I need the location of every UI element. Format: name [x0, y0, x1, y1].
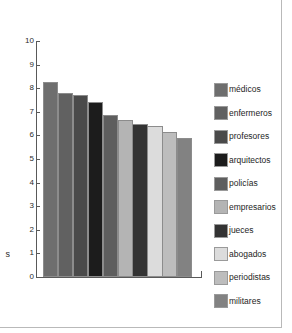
y-axis-tick-label-wrap: 5 [0, 155, 34, 163]
y-axis-tick-label-wrap: 9 [0, 61, 34, 69]
legend-label: periodistas [229, 273, 270, 282]
bar-series [43, 41, 192, 277]
bar [132, 124, 147, 277]
legend-label: empresarios [229, 203, 276, 212]
bar [73, 95, 88, 277]
legend-item: empresarios [214, 196, 280, 220]
legend-item: enfermeros [214, 102, 280, 126]
chart-page: 109876543210 s médicosenfermerosprofesor… [0, 0, 292, 333]
legend-item: militares [214, 290, 280, 314]
y-axis-tick [36, 206, 40, 207]
y-axis-tick-label: 4 [12, 179, 34, 187]
legend-label: militares [229, 297, 261, 306]
y-axis-tick-label: 9 [12, 61, 34, 69]
x-axis-line [36, 277, 202, 278]
legend-swatch [214, 224, 228, 238]
y-axis-tick [36, 277, 40, 278]
y-axis-tick-label-wrap: 7 [0, 108, 34, 116]
y-axis-tick-label: 8 [12, 84, 34, 92]
legend-item: periodistas [214, 266, 280, 290]
bar [58, 93, 73, 277]
y-axis-tick-label: 10 [12, 37, 34, 45]
page-gutter-right [282, 0, 292, 333]
bar [103, 115, 118, 277]
y-axis-tick-label-wrap: 0 [0, 273, 34, 281]
y-axis-tick-label: 5 [12, 155, 34, 163]
legend-swatch [214, 271, 228, 285]
y-axis-tick-label: 7 [12, 108, 34, 116]
bar [88, 102, 103, 277]
legend-swatch [214, 177, 228, 191]
legend-item: jueces [214, 219, 280, 243]
legend-label: jueces [229, 226, 254, 235]
y-axis-tick-label-wrap: 4 [0, 179, 34, 187]
y-axis-tick [36, 41, 40, 42]
y-axis-tick-label-wrap: 6 [0, 131, 34, 139]
legend-label: policías [229, 179, 258, 188]
chart-legend: médicosenfermerosprofesoresarquitectospo… [214, 78, 280, 313]
y-axis-tick-label-wrap: 3 [0, 202, 34, 210]
legend-label: enfermeros [229, 109, 272, 118]
legend-item: policías [214, 172, 280, 196]
y-axis-tick [36, 183, 40, 184]
legend-item: profesores [214, 125, 280, 149]
y-axis-tick [36, 65, 40, 66]
legend-swatch [214, 83, 228, 97]
y-axis-tick [36, 230, 40, 231]
y-axis-tick [36, 112, 40, 113]
y-axis-tick-label: 6 [12, 131, 34, 139]
y-axis-tick-label: 1 [12, 249, 34, 257]
legend-label: profesores [229, 132, 269, 141]
y-axis-tick [36, 159, 40, 160]
legend-swatch [214, 106, 228, 120]
y-axis-tick-label-wrap: 2 [0, 226, 34, 234]
bar [118, 120, 133, 277]
y-axis-tick [36, 135, 40, 136]
bar [162, 132, 177, 277]
legend-item: médicos [214, 78, 280, 102]
legend-swatch [214, 294, 228, 308]
y-axis-tick-label: 2 [12, 226, 34, 234]
y-axis-tick-label-wrap: 10 [0, 37, 34, 45]
legend-label: arquitectos [229, 156, 271, 165]
legend-swatch [214, 153, 228, 167]
legend-label: médicos [229, 85, 261, 94]
page-gutter-bottom [0, 328, 292, 333]
y-axis-label-clipped: s [0, 249, 10, 259]
y-axis-tick [36, 88, 40, 89]
y-axis-tick-label-wrap: 8 [0, 84, 34, 92]
bar [177, 138, 192, 277]
legend-swatch [214, 200, 228, 214]
y-axis-tick-label: 0 [12, 273, 34, 281]
bar [43, 82, 58, 277]
y-axis-tick [36, 253, 40, 254]
legend-swatch [214, 130, 228, 144]
x-axis-end-cap [201, 271, 202, 277]
legend-item: arquitectos [214, 149, 280, 173]
legend-swatch [214, 247, 228, 261]
legend-item: abogados [214, 243, 280, 267]
bar [147, 126, 162, 277]
legend-label: abogados [229, 250, 266, 259]
y-axis-tick-label: 3 [12, 202, 34, 210]
